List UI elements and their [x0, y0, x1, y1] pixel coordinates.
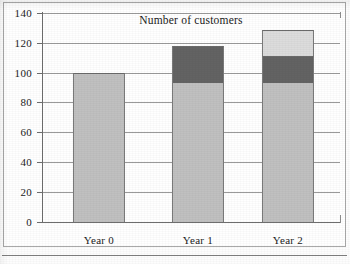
y-tick-label-60: 60 — [2, 127, 32, 137]
y-tick-label-80: 80 — [2, 97, 32, 107]
bar-segment-year-1-base — [172, 83, 224, 222]
bottom-rule — [2, 255, 347, 256]
bar-segment-year-2-second — [262, 56, 314, 83]
y-tick-label-0: 0 — [2, 217, 32, 227]
y-tick-label-40: 40 — [2, 157, 32, 167]
y-tick-label-140: 140 — [2, 8, 32, 18]
bar-segment-year-0-base — [73, 73, 125, 222]
y-tick-120 — [37, 43, 43, 44]
plot-right-edge-top — [340, 12, 341, 18]
y-tick-40 — [37, 162, 43, 163]
scanned-page: 140 120 100 80 60 40 20 0 Number of cust… — [0, 0, 350, 264]
x-tick-label-year-2: Year 2 — [228, 234, 348, 246]
bar-segment-year-1-second — [172, 46, 224, 83]
y-tick-60 — [37, 132, 43, 133]
bar-year-0 — [73, 73, 125, 222]
x-axis-line — [42, 222, 341, 223]
y-tick-0 — [37, 222, 43, 223]
bar-year-1 — [172, 46, 224, 222]
y-tick-label-100: 100 — [2, 68, 32, 78]
bar-segment-year-2-third — [262, 30, 314, 56]
y-tick-100 — [37, 73, 43, 74]
chart-title: Number of customers — [42, 14, 340, 26]
bar-chart: 140 120 100 80 60 40 20 0 Number of cust… — [0, 0, 350, 264]
bar-segment-year-2-base — [262, 83, 314, 222]
y-tick-label-20: 20 — [2, 187, 32, 197]
plot-right-edge-bottom — [340, 215, 341, 223]
y-tick-20 — [37, 192, 43, 193]
bar-year-2 — [262, 30, 314, 222]
y-tick-80 — [37, 102, 43, 103]
y-tick-label-120: 120 — [2, 38, 32, 48]
